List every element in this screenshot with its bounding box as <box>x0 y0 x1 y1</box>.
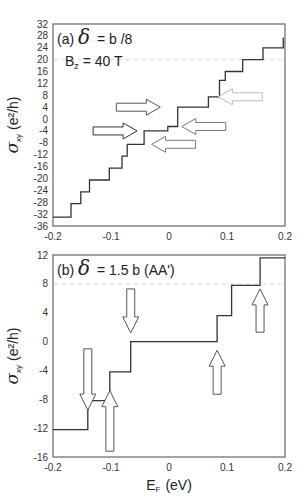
arrow-left-icon <box>152 136 196 152</box>
y-tick-label: 4 <box>42 307 48 318</box>
y-tick-label: -4 <box>39 125 48 136</box>
arrow-left-icon <box>182 118 226 134</box>
x-tick-label: -0.2 <box>44 462 62 473</box>
panel-b-chart: 12840-4-8-12-16-0.2-0.100.10.2(b) δ = 1.… <box>2 250 292 495</box>
x-axis-label: EF(eV) <box>146 477 192 494</box>
hall-conductivity-figure: 322824201612840-4-8-12-16-20-24-28-32-36… <box>0 0 306 502</box>
y-tick-label: -32 <box>34 209 49 220</box>
y-tick-label: 12 <box>37 250 49 261</box>
y-tick-label: -8 <box>39 137 48 148</box>
y-tick-label: 8 <box>42 90 48 101</box>
arrow-up-icon <box>102 391 118 452</box>
y-tick-label: -4 <box>39 365 48 376</box>
y-tick-label: -16 <box>34 452 49 463</box>
y-tick-label: -36 <box>34 221 49 232</box>
y-tick-label: 0 <box>42 336 48 347</box>
x-tick-label: -0.1 <box>102 462 120 473</box>
y-tick-label: 0 <box>42 114 48 125</box>
y-tick-label: 8 <box>42 278 48 289</box>
arrow-up-icon <box>209 350 225 394</box>
arrow-down-icon <box>123 289 139 333</box>
arrow-up-icon <box>252 289 268 332</box>
x-tick-label: 0.1 <box>220 231 234 242</box>
x-tick-label: -0.1 <box>102 231 120 242</box>
y-tick-label: -24 <box>34 185 49 196</box>
y-tick-label: 16 <box>37 66 49 77</box>
x-tick-label: 0 <box>166 231 172 242</box>
x-tick-label: 0 <box>166 462 172 473</box>
y-tick-label: 28 <box>37 30 49 41</box>
x-tick-label: 0.2 <box>278 231 292 242</box>
y-tick-label: 24 <box>37 42 49 53</box>
panel-title: (a) δ = b /8 <box>57 25 133 49</box>
x-tick-label: 0.1 <box>220 462 234 473</box>
y-tick-label: -12 <box>34 149 49 160</box>
y-tick-label: 20 <box>37 54 49 65</box>
y-tick-label: 32 <box>37 19 49 30</box>
y-tick-label: -8 <box>39 394 48 405</box>
field-annotation: Bz = 40 T <box>65 53 123 71</box>
panel-title: (b) δ = 1.5 b (AA') <box>57 256 175 280</box>
y-tick-label: 12 <box>37 78 49 89</box>
arrow-left-icon <box>218 89 262 105</box>
arrow-right-icon <box>93 123 137 139</box>
x-tick-label: 0.2 <box>278 462 292 473</box>
y-axis-label: σxy(e²/h) <box>2 327 23 384</box>
x-tick-label: -0.2 <box>44 231 62 242</box>
panel-a-chart: 322824201612840-4-8-12-16-20-24-28-32-36… <box>2 19 292 243</box>
y-axis-label: σxy(e²/h) <box>2 96 23 153</box>
arrow-right-icon <box>116 99 160 115</box>
y-tick-label: -16 <box>34 161 49 172</box>
y-tick-label: -20 <box>34 173 49 184</box>
y-tick-label: -28 <box>34 197 49 208</box>
y-tick-label: 4 <box>42 102 48 113</box>
y-tick-label: -12 <box>34 423 49 434</box>
